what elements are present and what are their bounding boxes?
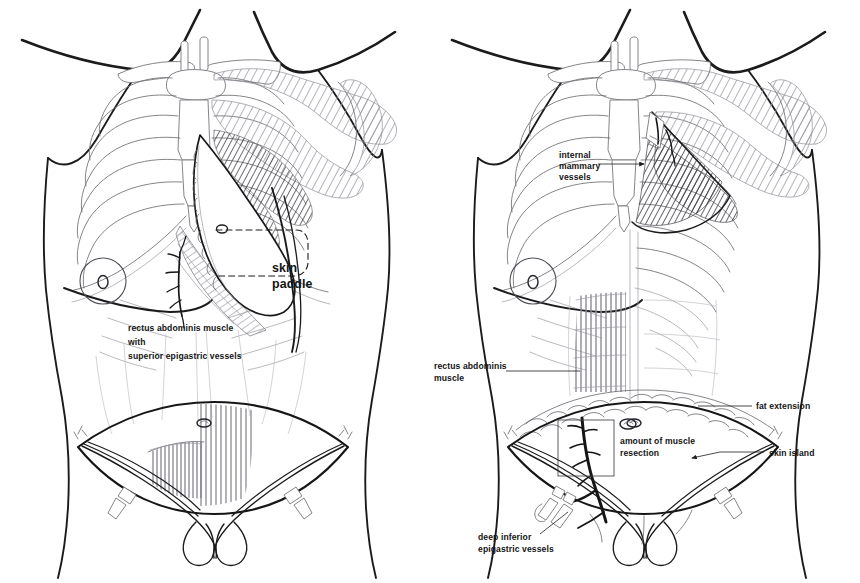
rectus-label-line3: superior epigastric vessels [128, 351, 242, 361]
label-deep-inferior-epigastric-vessels: deep inferior epigastric vessels [478, 532, 554, 554]
resection-line2: resection [620, 448, 659, 458]
figure-canvas: skin paddle rectus abdominis muscle with… [0, 0, 860, 583]
rectus-label-line1: rectus abdominis muscle [128, 323, 234, 333]
skin-paddle-label-line2: paddle [272, 277, 313, 291]
vessel-clamp-left [108, 487, 136, 519]
rectus-right-line2: muscle [434, 373, 464, 383]
fat-extension-band [516, 390, 774, 437]
internal-mammary-line2: mammary [559, 161, 600, 171]
left-panel: skin paddle rectus abdominis muscle with… [22, 10, 397, 578]
vessel-clamp-right [714, 487, 742, 519]
anatomical-figure: skin paddle rectus abdominis muscle with… [0, 0, 860, 583]
rectus-right-line1: rectus abdominis [434, 361, 507, 371]
deep-inferior-line2: epigastric vessels [478, 544, 554, 554]
internal-mammary-line1: internal [559, 150, 591, 160]
skin-island-label: skin island [769, 448, 815, 458]
label-amount-of-muscle-resection: amount of muscle resection [620, 436, 695, 458]
internal-mammary-line3: vessels [559, 172, 591, 182]
skin-island-arrow [692, 452, 720, 458]
resection-line1: amount of muscle [620, 436, 695, 446]
fat-extension-label: fat extension [756, 401, 810, 411]
label-rectus-superior-epigastric: rectus abdominis muscle with superior ep… [127, 323, 242, 361]
label-rectus-abdominis-muscle: rectus abdominis muscle [434, 361, 507, 383]
label-internal-mammary-vessels: internal mammary vessels [559, 150, 600, 182]
pectoralis-major-divided [632, 69, 827, 233]
rectus-label-line2: with [127, 337, 146, 347]
lower-abdominal-skin-ellipse [74, 402, 352, 566]
skin-paddle-label-line1: skin [272, 261, 297, 275]
rectus-abdominis-striations [569, 230, 721, 400]
right-panel: internal mammary vessels rectus abdomini… [434, 10, 827, 578]
deep-inferior-line1: deep inferior [478, 532, 532, 542]
vessel-clamp-right [284, 487, 312, 519]
